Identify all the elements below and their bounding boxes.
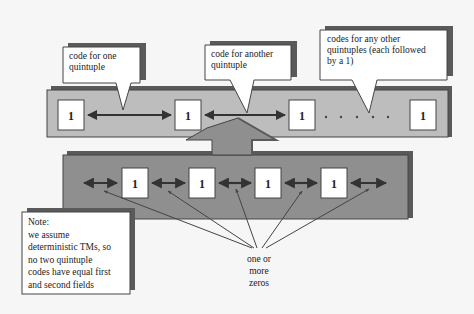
top-cell-3: 1 xyxy=(289,100,315,130)
svg-text:1: 1 xyxy=(185,109,191,123)
bottom-cell-3: 1 xyxy=(255,168,281,198)
callout-others-text: codes for any other quintuples (each fol… xyxy=(327,34,426,67)
note-text: Note: we assume deterministic TMs, so no… xyxy=(28,216,111,291)
callout-one-text: code for one quintuple xyxy=(69,51,116,73)
zeros-line-2: more xyxy=(236,265,282,277)
top-cell-2: 1 xyxy=(175,100,201,130)
note-line-2: we assume xyxy=(28,229,111,242)
zeros-line-3: zeros xyxy=(236,277,282,289)
svg-text:1: 1 xyxy=(132,177,138,191)
callout-others-line-1: codes for any other xyxy=(327,34,426,45)
note-line-6: and second fields xyxy=(28,279,111,292)
callout-others-line-3: by a 1) xyxy=(327,56,426,67)
note-line-3: deterministic TMs, so xyxy=(28,241,111,254)
bottom-cell-4: 1 xyxy=(321,168,347,198)
callout-others-line-2: quintuples (each followed xyxy=(327,45,426,56)
svg-text:1: 1 xyxy=(199,177,205,191)
top-cell-1: 1 xyxy=(58,100,84,130)
note-line-1: Note: xyxy=(28,216,111,229)
callout-another-line-1: code for another xyxy=(211,49,273,60)
bottom-cell-2: 1 xyxy=(189,168,215,198)
zeros-line-1: one or xyxy=(236,253,282,265)
callout-another-text: code for another quintuple xyxy=(211,49,273,71)
note-line-4: no two quintuple xyxy=(28,254,111,267)
bottom-cell-1: 1 xyxy=(122,168,148,198)
callout-one-line-1: code for one xyxy=(69,51,116,62)
svg-text:1: 1 xyxy=(265,177,271,191)
svg-text:1: 1 xyxy=(299,109,305,123)
zeros-label: one or more zeros xyxy=(236,253,282,289)
svg-text:1: 1 xyxy=(331,177,337,191)
top-cell-4: 1 xyxy=(410,100,436,130)
callout-another-line-2: quintuple xyxy=(211,60,273,71)
svg-text:1: 1 xyxy=(68,109,74,123)
svg-text:1: 1 xyxy=(420,109,426,123)
callout-one-line-2: quintuple xyxy=(69,62,116,73)
note-line-5: codes have equal first xyxy=(28,266,111,279)
diagram-canvas: 1 1 1 1 1 1 1 1 xyxy=(0,0,474,314)
